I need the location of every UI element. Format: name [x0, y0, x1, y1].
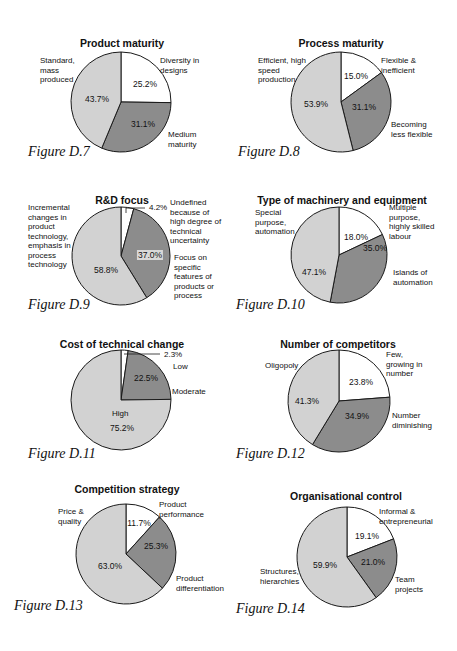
slice-label: Team projects [395, 575, 423, 594]
slice-percent: 21.0% [361, 557, 385, 567]
pie-chart [0, 0, 457, 651]
slice-label: Structures, hierarchies [260, 567, 299, 586]
slice-label: Informal & entrepreneurial [379, 507, 433, 526]
slice-percent: 59.9% [313, 560, 337, 570]
figure-caption: Figure D.14 [236, 601, 305, 617]
slice-percent: 19.1% [355, 531, 379, 541]
